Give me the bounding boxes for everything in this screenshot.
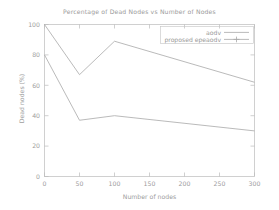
x-tick-label-250: 250: [209, 180, 230, 187]
legend-label-epeaodv: proposed epeaodv: [163, 36, 221, 43]
y-tick-label-80: 80: [16, 51, 40, 58]
chart-container: Percentage of Dead Nodes vs Number of No…: [0, 0, 279, 210]
legend-label-aodv: aodv: [163, 29, 221, 36]
x-tick-label-50: 50: [69, 180, 90, 187]
y-tick-label-20: 20: [16, 142, 40, 149]
x-tick-label-150: 150: [139, 180, 160, 187]
y-tick-label-100: 100: [16, 21, 40, 28]
x-tick-label-200: 200: [174, 180, 195, 187]
y-tick-label-0: 0: [16, 173, 40, 180]
x-tick-marks: [45, 25, 255, 177]
series-line-epeaodv: [45, 55, 255, 131]
x-tick-label-0: 0: [34, 180, 55, 187]
series-line-aodv: [45, 25, 255, 83]
x-tick-label-300: 300: [244, 180, 265, 187]
y-axis-title: Dead nodes (%): [18, 64, 25, 134]
plot-frame: [45, 25, 255, 177]
x-axis-title: Number of nodes: [44, 193, 255, 200]
plus-marker-icon: [234, 37, 240, 43]
plot-canvas: [0, 0, 279, 210]
x-tick-label-100: 100: [104, 180, 125, 187]
y-tick-marks: [45, 25, 255, 177]
